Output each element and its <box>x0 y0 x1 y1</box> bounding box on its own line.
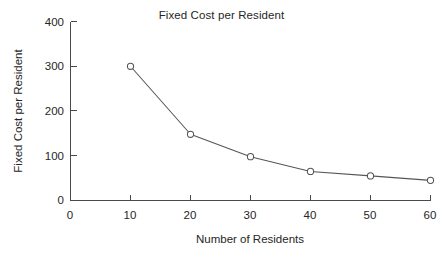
series-markers <box>127 63 433 183</box>
y-tick-label-400: 400 <box>45 16 64 28</box>
y-tick-label-0: 0 <box>58 194 64 206</box>
plot-area: 400 300 200 100 0 0 10 20 30 40 50 60 Nu… <box>0 0 447 257</box>
x-tick-label-50: 50 <box>364 209 377 221</box>
x-tick-label-10: 10 <box>124 209 137 221</box>
x-axis-title: Number of Residents <box>196 233 304 245</box>
data-point-50 <box>367 173 373 179</box>
x-tick-label-30: 30 <box>244 209 257 221</box>
y-axis-ticks <box>71 22 77 156</box>
x-axis-tick-labels: 0 10 20 30 40 50 60 <box>67 209 437 221</box>
data-point-30 <box>247 154 253 160</box>
x-axis-ticks <box>131 195 431 201</box>
chart-figure: Fixed Cost per Resident 400 300 200 100 … <box>0 0 447 257</box>
x-tick-label-0: 0 <box>67 209 73 221</box>
y-tick-label-100: 100 <box>45 150 64 162</box>
data-point-40 <box>307 168 313 174</box>
y-axis-title: Fixed Cost per Resident <box>12 49 24 173</box>
y-tick-label-200: 200 <box>45 105 64 117</box>
x-tick-label-60: 60 <box>424 209 437 221</box>
series-line <box>131 66 431 180</box>
data-point-10 <box>127 63 133 69</box>
data-point-20 <box>187 131 193 137</box>
x-tick-label-20: 20 <box>184 209 197 221</box>
x-tick-label-40: 40 <box>304 209 317 221</box>
y-axis-tick-labels: 400 300 200 100 0 <box>45 16 64 207</box>
y-tick-label-300: 300 <box>45 60 64 72</box>
data-point-60 <box>427 177 433 183</box>
